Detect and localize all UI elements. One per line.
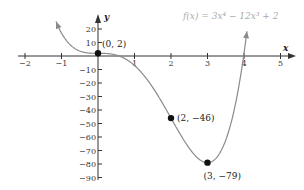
y-tick-label: 10	[86, 39, 96, 48]
axes	[18, 14, 296, 180]
point-marker	[204, 159, 210, 165]
x-tick-label: −1	[56, 59, 68, 68]
function-label: f(x) = 3x⁴ − 12x³ + 2	[182, 11, 279, 21]
ticks: −2−1123452010−10−20−30−40−50−60−70−80−90	[19, 25, 283, 183]
y-tick-label: −40	[79, 106, 96, 115]
x-axis-label: x	[282, 43, 289, 53]
y-tick-label: −30	[79, 93, 96, 102]
y-tick-label: −60	[79, 133, 96, 142]
curve-arrow-icon	[243, 31, 249, 38]
x-tick-label: 5	[278, 59, 283, 68]
y-tick-label: −20	[79, 79, 96, 88]
y-axis-arrow-icon	[95, 14, 101, 23]
x-axis-arrow-icon	[288, 53, 296, 59]
point-label: (2, −46)	[177, 113, 214, 123]
y-tick-label: −50	[79, 120, 96, 129]
y-axis-label: y	[103, 12, 110, 22]
function-graph: −2−1123452010−10−20−30−40−50−60−70−80−90…	[0, 0, 304, 190]
x-tick-label: 3	[205, 59, 210, 68]
x-tick-label: 2	[168, 59, 173, 68]
y-tick-label: 20	[86, 25, 96, 34]
y-tick-label: −70	[79, 147, 96, 156]
y-tick-label: −80	[79, 160, 96, 169]
point-label: (3, −79)	[204, 171, 241, 181]
y-tick-label: −90	[79, 174, 96, 183]
point-label: (0, 2)	[102, 39, 126, 49]
y-tick-label: −10	[79, 66, 96, 75]
point-marker	[95, 50, 101, 56]
point-marker	[168, 115, 174, 121]
x-tick-label: −2	[19, 59, 31, 68]
